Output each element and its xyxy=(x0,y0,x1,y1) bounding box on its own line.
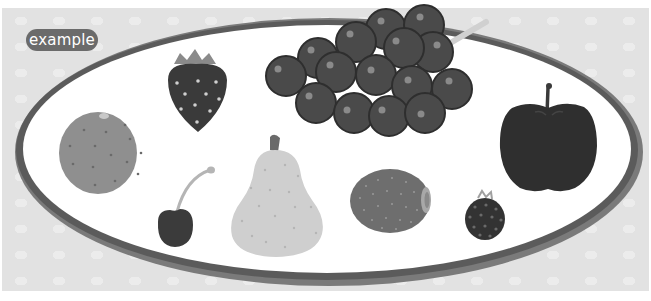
fruit-platter-illustration xyxy=(0,0,651,301)
example-label-badge: example xyxy=(26,29,98,51)
